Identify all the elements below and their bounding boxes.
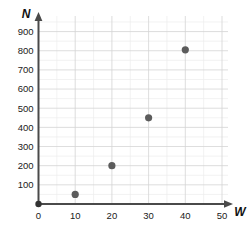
y-tick-label: 100 (18, 179, 34, 190)
x-tick-label: 20 (107, 210, 118, 221)
x-axis-arrowhead (224, 200, 233, 208)
y-axis-label: N (22, 7, 31, 21)
major-gridlines (39, 16, 229, 204)
scatter-plot-figure: 100200300400500600700800900 01020304050 … (0, 0, 251, 229)
data-point (72, 191, 79, 198)
data-point (182, 46, 189, 53)
data-point (145, 114, 152, 121)
y-tick-label: 900 (18, 26, 34, 37)
x-tick-label: 0 (36, 210, 41, 221)
y-tick-label: 500 (18, 103, 34, 114)
y-axis-tick-labels: 100200300400500600700800900 (18, 26, 34, 190)
x-tick-label: 40 (180, 210, 191, 221)
x-tick-label: 50 (217, 210, 228, 221)
y-tick-label: 400 (18, 122, 34, 133)
minor-gridlines (39, 16, 229, 204)
x-tick-label: 10 (70, 210, 81, 221)
x-axis-tick-labels: 01020304050 (36, 210, 227, 221)
y-tick-label: 300 (18, 141, 34, 152)
chart-canvas: 100200300400500600700800900 01020304050 … (0, 0, 251, 229)
x-tick-label: 30 (143, 210, 154, 221)
y-tick-label: 800 (18, 45, 34, 56)
y-tick-label: 200 (18, 160, 34, 171)
x-axis-label: W (234, 205, 247, 219)
origin-point-marker (35, 201, 41, 207)
y-tick-label: 600 (18, 83, 34, 94)
y-tick-label: 700 (18, 64, 34, 75)
y-axis-arrowhead (35, 12, 43, 21)
data-point (108, 162, 115, 169)
